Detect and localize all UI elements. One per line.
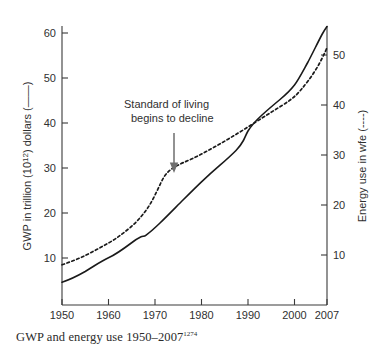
figure-caption-text: GWP and energy use 1950–2007 xyxy=(16,330,183,344)
y-right-tick-labels: 50 40 30 20 10 xyxy=(333,49,345,261)
series-line-energy xyxy=(62,48,327,265)
y-right-tick-label-10: 10 xyxy=(333,249,345,261)
series-line-gwp xyxy=(62,27,327,283)
y-left-tick-label-40: 40 xyxy=(44,117,56,129)
y-left-tick-label-10: 10 xyxy=(44,252,56,264)
y-right-tick-label-40: 40 xyxy=(333,99,345,111)
annotation-line-1: Standard of living xyxy=(124,98,209,110)
y-left-axis-title: GWP in trillion (1012) dollars (——) xyxy=(21,82,34,251)
y-left-tick-label-60: 60 xyxy=(44,27,56,39)
y-left-tick-labels: 60 50 40 30 20 10 xyxy=(44,27,56,264)
y-left-ticks xyxy=(62,33,68,258)
figure-caption-superscript: 1274 xyxy=(183,330,197,338)
x-tick-label-1970: 1970 xyxy=(143,309,167,321)
x-tick-label-1960: 1960 xyxy=(96,309,120,321)
x-tick-label-2000: 2000 xyxy=(282,309,306,321)
annotation-line-2: begins to decline xyxy=(131,112,214,124)
annotation-text: Standard of living begins to decline xyxy=(124,98,214,124)
x-tick-label-1980: 1980 xyxy=(189,309,213,321)
y-left-axis-title-part1: GWP in trillion (10 xyxy=(21,162,33,250)
y-left-tick-label-50: 50 xyxy=(44,72,56,84)
x-tick-label-1950: 1950 xyxy=(50,309,74,321)
down-arrow-icon xyxy=(170,163,178,174)
chart-figure: 60 50 40 30 20 10 50 40 30 20 10 xyxy=(0,0,383,353)
y-right-tick-label-30: 30 xyxy=(333,149,345,161)
figure-caption: GWP and energy use 1950–20071274 xyxy=(16,330,197,345)
x-tick-label-2007: 2007 xyxy=(315,309,339,321)
x-tick-label-1990: 1990 xyxy=(236,309,260,321)
y-right-axis-title: Energy use in wfe (----) xyxy=(356,110,368,222)
annotation-arrow xyxy=(170,133,178,173)
y-left-tick-label-20: 20 xyxy=(44,207,56,219)
y-left-axis-title-part2: ) dollars (——) xyxy=(21,82,33,154)
y-right-tick-label-20: 20 xyxy=(333,199,345,211)
y-right-ticks xyxy=(321,55,327,255)
chart-plot-area: 60 50 40 30 20 10 50 40 30 20 10 xyxy=(0,0,383,353)
x-tick-labels: 1950 1960 1970 1980 1990 2000 2007 xyxy=(50,309,339,321)
x-ticks xyxy=(62,299,327,305)
y-left-tick-label-30: 30 xyxy=(44,162,56,174)
y-right-tick-label-50: 50 xyxy=(333,49,345,61)
